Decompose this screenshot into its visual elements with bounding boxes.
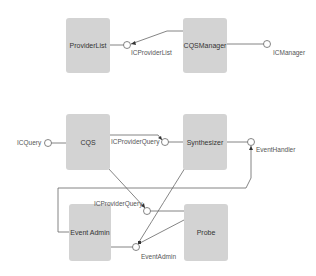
component-cqsmanager[interactable]: CQSManager (183, 18, 227, 73)
component-label: Synthesizer (187, 139, 224, 146)
component-label: ProviderList (70, 42, 107, 49)
arrowhead-eventadmin (138, 241, 141, 244)
component-label: CQSManager (184, 42, 227, 49)
component-label: Probe (197, 229, 216, 236)
component-label: CQS (80, 139, 95, 146)
component-eventadmin[interactable]: Event Admin (69, 204, 111, 261)
connector-synthesizer-eventadmin (139, 168, 185, 242)
interface-icproviderquery-2-icon[interactable] (144, 208, 151, 215)
interface-eventhandler-icon[interactable] (248, 139, 255, 146)
interface-label-icproviderquery-1: ICProviderQuery (111, 138, 159, 145)
interface-label-eventhandler: EventHandler (256, 146, 295, 153)
arrowhead-icproviderlist (131, 41, 136, 45)
component-synthesizer[interactable]: Synthesizer (183, 114, 227, 170)
interface-icproviderquery-1-icon[interactable] (162, 139, 169, 146)
component-probe[interactable]: Probe (184, 204, 228, 261)
arrowhead-eventhandler (249, 146, 253, 150)
interface-label-icproviderlist: ICProviderList (131, 49, 172, 56)
interface-label-icproviderquery-2: ICProviderQuery (94, 200, 142, 207)
interface-icmanager-icon[interactable] (264, 41, 271, 48)
component-label: Event Admin (70, 229, 109, 236)
interface-eventadmin-icon[interactable] (133, 244, 140, 251)
component-cqs[interactable]: CQS (66, 114, 110, 170)
interface-label-icmanager: ICManager (273, 49, 305, 56)
interface-icproviderlist-icon[interactable] (124, 42, 131, 49)
connector-cqsmanager-icproviderlist (131, 31, 183, 44)
component-providerlist[interactable]: ProviderList (66, 18, 110, 73)
interface-icquery-icon[interactable] (45, 140, 52, 147)
interface-label-eventadmin: EventAdmin (141, 253, 176, 260)
interface-label-icquery: ICQuery (17, 139, 41, 146)
connector-probe-eventadmin (140, 220, 184, 243)
